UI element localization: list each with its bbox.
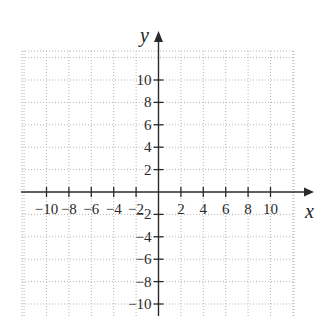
x-axis-label: x [304, 200, 314, 222]
x-tick-label: −6 [83, 201, 99, 217]
y-tick-label: 6 [144, 117, 152, 133]
x-tick-label: −10 [35, 201, 58, 217]
y-tick-label: −2 [136, 206, 152, 222]
y-tick-label: 10 [137, 72, 152, 88]
y-tick-label: −10 [128, 296, 151, 312]
y-tick-label: −6 [136, 251, 152, 267]
x-tick-label: 10 [263, 201, 278, 217]
x-tick-label: 4 [200, 201, 208, 217]
x-tick-label: −8 [61, 201, 77, 217]
y-tick-label: −4 [136, 229, 152, 245]
x-axis-arrow-icon [304, 188, 314, 197]
y-tick-label: 4 [144, 139, 152, 155]
y-tick-label: 2 [144, 162, 152, 178]
coordinate-plane: −10−8−6−4−2246810−10−8−6−4−2246810 x y [0, 0, 330, 316]
x-tick-label: −4 [106, 201, 122, 217]
y-tick-label: 8 [144, 94, 152, 110]
x-tick-label: 6 [222, 201, 230, 217]
x-tick-label: 8 [244, 201, 252, 217]
y-tick-label: −8 [136, 274, 152, 290]
y-axis-label: y [138, 24, 149, 47]
x-tick-label: 2 [177, 201, 185, 217]
y-axis-arrow-icon [154, 31, 163, 42]
